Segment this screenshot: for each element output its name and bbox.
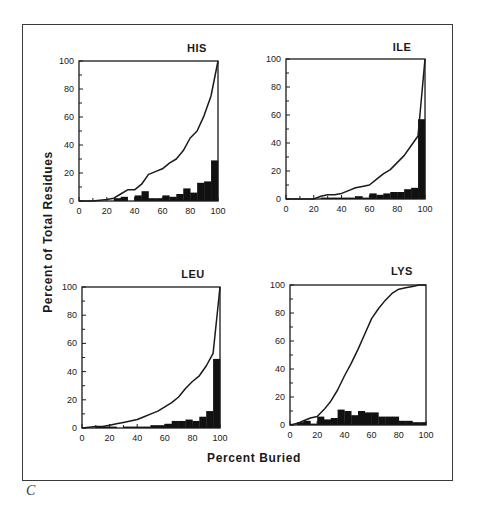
x-tick-label: 100: [418, 430, 433, 440]
histogram-bar: [365, 412, 372, 425]
chart-title: ILE: [393, 41, 412, 53]
y-tick-label: 100: [62, 282, 77, 292]
y-tick-label: 80: [64, 84, 74, 94]
histogram-bar: [385, 417, 392, 425]
histogram-bar: [390, 192, 397, 199]
histogram-bar: [404, 189, 411, 199]
chart-title: LEU: [181, 268, 205, 280]
histogram-bars: [321, 119, 426, 199]
histogram-bar: [162, 195, 169, 201]
histogram-bar: [190, 193, 197, 201]
histogram-bar: [142, 191, 149, 201]
histogram-bar: [358, 411, 365, 425]
histogram-bar: [392, 417, 399, 425]
histogram-bar: [317, 417, 324, 425]
x-tick-label: 0: [79, 433, 84, 443]
histogram-bar: [378, 417, 385, 425]
x-tick-label: 0: [287, 430, 292, 440]
panel-letter: C: [26, 483, 35, 499]
histogram-bar: [211, 160, 218, 201]
x-tick-label: 0: [76, 206, 81, 216]
cumulative-line: [82, 287, 220, 428]
x-tick-label: 20: [312, 430, 322, 440]
x-tick-label: 20: [309, 204, 319, 214]
plot-area-border: [82, 287, 220, 428]
y-tick-label: 0: [72, 423, 77, 433]
y-tick-label: 60: [275, 336, 285, 346]
x-tick-label: 40: [337, 204, 347, 214]
x-tick-label: 60: [160, 433, 170, 443]
chart-panel-ile: 020406080100020406080100ILE: [266, 41, 433, 214]
y-tick-label: 80: [271, 82, 281, 92]
y-tick-label: 20: [64, 168, 74, 178]
plot-area-border: [290, 285, 426, 425]
y-tick-label: 0: [276, 194, 281, 204]
x-axis-label: Percent Buried: [207, 451, 301, 465]
figure-canvas: 020406080100020406080100HIS0204060801000…: [0, 0, 477, 508]
chart-title: HIS: [187, 42, 207, 54]
histogram-bar: [199, 417, 206, 428]
y-tick-label: 40: [67, 367, 77, 377]
histogram-bar: [176, 194, 183, 201]
histogram-bar: [331, 418, 338, 425]
chart-panel-lys: 020406080100020406080100LYS: [270, 265, 434, 440]
cumulative-line: [286, 59, 425, 199]
histogram-bar: [172, 421, 179, 428]
histogram-bar: [351, 415, 358, 425]
y-axis-label: Percent of Total Residues: [41, 151, 55, 312]
y-tick-label: 100: [266, 54, 281, 64]
y-tick-label: 60: [271, 110, 281, 120]
histogram-bar: [206, 411, 213, 428]
cumulative-line: [79, 61, 218, 201]
y-tick-label: 80: [275, 308, 285, 318]
x-tick-label: 60: [367, 430, 377, 440]
x-tick-label: 80: [392, 204, 402, 214]
x-tick-label: 100: [210, 206, 225, 216]
histogram-bar: [411, 188, 418, 199]
histogram-bars: [96, 359, 221, 428]
y-tick-label: 20: [67, 395, 77, 405]
cumulative-line: [290, 285, 426, 425]
histogram-bar: [372, 412, 379, 425]
y-tick-label: 0: [280, 420, 285, 430]
x-tick-label: 100: [212, 433, 227, 443]
histogram-bar: [135, 195, 142, 201]
histogram-bar: [179, 421, 186, 428]
histogram-bar: [183, 188, 190, 201]
histogram-bar: [186, 420, 193, 428]
y-tick-label: 0: [69, 196, 74, 206]
x-tick-label: 0: [283, 204, 288, 214]
histogram-bar: [338, 410, 345, 425]
histogram-bar: [369, 193, 376, 199]
x-tick-label: 60: [364, 204, 374, 214]
y-tick-label: 20: [271, 166, 281, 176]
histogram-bar: [324, 419, 331, 425]
y-tick-label: 40: [275, 364, 285, 374]
x-tick-label: 20: [105, 433, 115, 443]
x-tick-label: 40: [130, 206, 140, 216]
y-tick-label: 80: [67, 310, 77, 320]
histogram-bar: [204, 181, 211, 201]
x-tick-label: 20: [102, 206, 112, 216]
y-tick-label: 100: [270, 280, 285, 290]
chart-panel-leu: 020406080100020406080100LEU: [62, 268, 228, 443]
y-tick-label: 40: [64, 140, 74, 150]
x-tick-label: 100: [417, 204, 432, 214]
x-tick-label: 40: [339, 430, 349, 440]
y-tick-label: 100: [59, 56, 74, 66]
x-tick-label: 60: [157, 206, 167, 216]
y-tick-label: 40: [271, 138, 281, 148]
chart-panel-his: 020406080100020406080100HIS: [59, 42, 226, 216]
plot-area-border: [286, 59, 425, 199]
histogram-bar: [383, 193, 390, 199]
y-tick-label: 20: [275, 392, 285, 402]
x-tick-label: 80: [394, 430, 404, 440]
y-tick-label: 60: [64, 112, 74, 122]
histogram-bar: [344, 411, 351, 425]
histogram-bar: [192, 421, 199, 428]
y-tick-label: 60: [67, 338, 77, 348]
histogram-bar: [397, 192, 404, 199]
histogram-bar: [213, 359, 220, 428]
x-tick-label: 80: [187, 433, 197, 443]
chart-title: LYS: [391, 265, 413, 277]
